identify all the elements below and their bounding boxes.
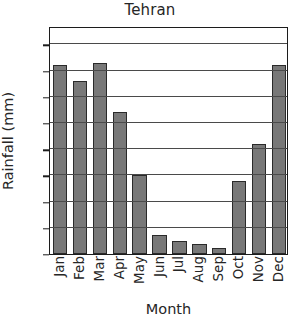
gridline-15 — [50, 174, 287, 175]
gridline-25 — [50, 122, 287, 123]
x-tick-label-dec: Dec — [270, 256, 286, 282]
gridline-30 — [50, 96, 287, 97]
x-axis-title: Month — [49, 301, 288, 317]
x-tick-label-jul: Jul — [170, 256, 186, 272]
bar-feb — [73, 81, 87, 254]
x-tick-label-aug: Aug — [190, 256, 206, 282]
y-tick-mark-20 — [43, 149, 49, 150]
bar-mar — [93, 63, 107, 254]
bar-apr — [113, 112, 127, 254]
y-tick-mark-5 — [43, 228, 49, 229]
x-axis-ticks: JanFebMarAprMayJunJulAugSepOctNovDec — [49, 256, 288, 300]
rainfall-bar-chart: Tehran Rainfall (mm) 0510152025303540 Ja… — [0, 0, 300, 324]
gridline-20 — [50, 148, 287, 149]
y-tick-mark-40 — [43, 45, 49, 46]
bar-jan — [53, 65, 67, 254]
plot-area — [49, 27, 288, 255]
x-tick-label-may: May — [131, 256, 147, 284]
gridline-10 — [50, 201, 287, 202]
bar-sep — [212, 248, 226, 254]
bar-dec — [272, 65, 286, 254]
chart-title: Tehran — [0, 1, 300, 19]
x-tick-label-oct: Oct — [230, 256, 246, 279]
x-tick-label-mar: Mar — [91, 256, 107, 281]
bar-nov — [252, 144, 266, 254]
bar-oct — [232, 181, 246, 254]
bar-may — [132, 175, 146, 254]
y-tick-mark-25 — [43, 123, 49, 124]
x-tick-label-feb: Feb — [71, 256, 87, 280]
x-tick-label-sep: Sep — [210, 256, 226, 281]
bar-aug — [192, 244, 206, 254]
y-tick-mark-35 — [43, 71, 49, 72]
x-tick-label-apr: Apr — [111, 256, 127, 279]
bar-jul — [172, 241, 186, 254]
y-axis-title-text: Rainfall (mm) — [0, 92, 16, 190]
gridline-5 — [50, 227, 287, 228]
y-tick-mark-30 — [43, 97, 49, 98]
x-tick-label-jun: Jun — [151, 256, 167, 277]
x-tick-label-nov: Nov — [250, 256, 266, 282]
gridline-35 — [50, 70, 287, 71]
x-tick-label-jan: Jan — [51, 256, 67, 277]
bar-series — [50, 28, 287, 254]
y-tick-mark-10 — [43, 202, 49, 203]
gridline-40 — [50, 43, 287, 44]
y-axis-title: Rainfall (mm) — [0, 27, 18, 255]
bar-jun — [152, 235, 166, 254]
y-tick-mark-15 — [43, 176, 49, 177]
